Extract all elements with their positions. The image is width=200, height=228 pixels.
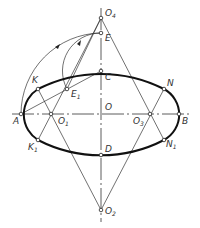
label-N1: N1 [166,139,177,150]
point-O2 [99,208,103,212]
label-O3: O3 [133,116,144,127]
point-E1 [65,87,69,91]
point-O3 [148,112,152,116]
point-K [36,87,40,91]
point-E [99,31,103,35]
point-O4 [99,16,103,20]
approximate-ellipse [24,74,179,155]
label-O: O [105,102,112,112]
label-D: D [105,144,112,154]
label-C: C [105,72,112,82]
point-labels: O4 E C O D O2 A B O1 O3 K K1 N N1 E1 [12,8,188,217]
label-O4: O4 [105,8,116,19]
point-B [177,112,181,116]
point-K1 [36,138,40,142]
point-N [162,87,166,91]
point-D [99,153,103,157]
label-K: K [32,75,39,85]
label-E1: E1 [71,89,81,100]
point-C [99,69,103,73]
label-O2: O2 [105,206,116,217]
label-O1: O1 [58,116,69,127]
label-K1: K1 [28,142,38,153]
label-B: B [182,116,188,126]
point-A [19,112,23,116]
label-A: A [12,116,19,126]
arrow-icon [55,44,60,49]
label-E: E [105,33,111,43]
ellipse-construction-diagram: O4 E C O D O2 A B O1 O3 K K1 N N1 E1 [0,0,200,228]
label-N: N [167,78,174,88]
point-O1 [49,112,53,116]
